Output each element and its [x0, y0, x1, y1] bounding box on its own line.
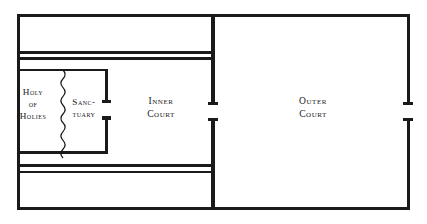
- temple-floor-plan-figure: Holy of Holies Sanc- tuary Inner Court O…: [0, 0, 427, 224]
- north-band-line-upper: [20, 51, 212, 54]
- outer-wall-east-lower: [407, 119, 410, 210]
- sanctuary-wall-south: [17, 151, 108, 154]
- sanctuary-gate-jamb-south: [102, 116, 111, 119]
- outer-court-gate-jamb-south: [403, 118, 413, 121]
- veil-wavy-divider: [61, 70, 65, 158]
- north-band-line-lower: [20, 57, 212, 59]
- inner-court-gate-jamb-south: [208, 118, 218, 121]
- inner-court-gate-jamb-north: [208, 102, 218, 105]
- outer-court-gate-jamb-north: [403, 102, 413, 105]
- south-chamber-band-wall: [20, 164, 212, 172]
- outer-wall-east-with-gate: [403, 14, 413, 210]
- sanctuary-wall-east-lower: [105, 118, 108, 154]
- sanctuary-gate-jamb-north: [102, 100, 111, 103]
- court-divider-lower: [211, 119, 214, 210]
- court-divider-upper: [211, 14, 214, 104]
- sanctuary-wall-east-upper: [105, 69, 108, 103]
- south-band-line-lower: [20, 171, 212, 173]
- south-band-line-upper: [20, 164, 212, 167]
- outer-wall-east-upper: [407, 14, 410, 104]
- outer-wall-west: [17, 14, 20, 210]
- sanctuary-wall-north: [17, 69, 108, 72]
- floor-plan-drawing: [0, 0, 427, 224]
- north-chamber-band-wall: [20, 51, 212, 59]
- inner-outer-court-divider-wall: [208, 14, 218, 210]
